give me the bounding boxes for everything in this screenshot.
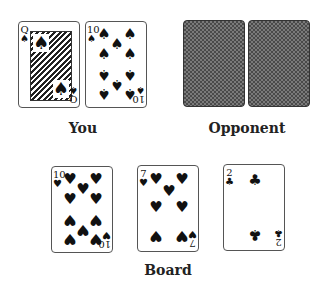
heart-icon: ♥ — [148, 228, 164, 243]
spade-icon: ♠ — [53, 80, 69, 98]
card-opponent-facedown-2 — [248, 20, 310, 107]
heart-icon: ♥ — [174, 200, 190, 215]
club-icon: ♣ — [274, 228, 283, 239]
queen-portrait: ♠ ♠ — [30, 31, 72, 101]
heart-icon: ♥ — [88, 192, 104, 207]
card-index: 10♥ — [53, 170, 62, 188]
card-opponent-facedown-1 — [183, 20, 245, 107]
heart-icon: ♥ — [62, 231, 78, 246]
heart-icon: ♥ — [188, 229, 197, 240]
club-icon: ♣ — [247, 173, 263, 188]
heart-icon: ♥ — [53, 178, 62, 189]
card-index: Q♠ — [20, 25, 29, 43]
opponent-label: Opponent — [183, 120, 311, 136]
spade-icon: ♠ — [33, 34, 49, 52]
card-index: 7♥ — [139, 169, 148, 187]
card-index: 7♥ — [188, 230, 197, 248]
card-board-ten-hearts: 10♥ ♥ ♥ ♥ ♥ ♥ ♥ ♥ ♥ ♥ ♥ 10♥ — [51, 166, 113, 253]
heart-icon: ♥ — [139, 177, 148, 188]
you-label: You — [18, 120, 148, 136]
spade-icon: ♠ — [136, 85, 145, 96]
board-label: Board — [118, 262, 218, 278]
spade-icon: ♠ — [96, 86, 112, 101]
card-index: 10♥ — [102, 231, 111, 249]
spade-icon: ♠ — [122, 47, 138, 62]
card-board-seven-hearts: 7♥ ♥ ♥ ♥ ♥ ♥ ♥ ♥ 7♥ — [137, 165, 199, 252]
heart-icon: ♥ — [148, 200, 164, 215]
club-icon: ♣ — [247, 227, 263, 242]
heart-icon: ♥ — [161, 184, 177, 199]
card-you-queen-spades: Q♠ ♠ ♠ Q♠ — [18, 21, 80, 108]
spade-icon: ♠ — [96, 47, 112, 62]
card-index: Q♠ — [69, 86, 78, 104]
spade-icon: ♠ — [20, 33, 29, 44]
card-index: 2♣ — [225, 168, 234, 186]
heart-icon: ♥ — [62, 192, 78, 207]
card-board-two-clubs: 2♣ ♣ ♣ 2♣ — [223, 164, 285, 251]
spade-icon: ♠ — [87, 33, 96, 44]
club-icon: ♣ — [225, 176, 234, 187]
card-index: 2♣ — [274, 229, 283, 247]
spade-icon: ♠ — [69, 85, 78, 96]
card-index: 10♠ — [136, 86, 145, 104]
heart-icon: ♥ — [102, 230, 111, 241]
card-index: 10♠ — [87, 25, 96, 43]
card-you-ten-spades: 10♠ ♠ ♠ ♠ ♠ ♠ ♠ ♠ ♠ ♠ ♠ 10♠ — [85, 21, 147, 108]
